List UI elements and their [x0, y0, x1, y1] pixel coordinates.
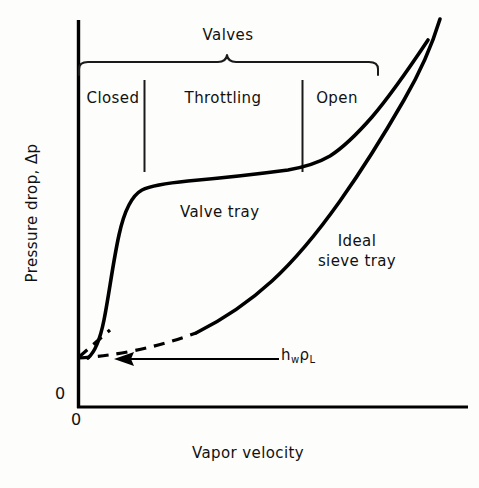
- region-label-throttling: Throttling: [147, 89, 299, 107]
- valves-bracket-label: Valves: [128, 26, 328, 44]
- origin-label-y: 0: [55, 384, 66, 403]
- annotation-h-symbol: h: [281, 346, 291, 364]
- region-label-closed: Closed: [84, 89, 142, 107]
- valve-tray-curve: [88, 40, 428, 358]
- y-axis-title: Pressure drop, Δp: [23, 118, 41, 308]
- figure-container: Pressure drop, Δp Vapor velocity Valves …: [0, 0, 479, 488]
- annotation-h-subscript: w: [291, 354, 300, 365]
- valves-brace: [79, 55, 378, 75]
- valve-tray-curve-label: Valve tray: [180, 203, 259, 221]
- annotation-rho-symbol: ρ: [300, 346, 310, 364]
- weir-liquid-head-annotation: hwρL: [281, 346, 315, 365]
- region-label-open: Open: [306, 89, 368, 107]
- annotation-rho-subscript: L: [309, 354, 315, 365]
- x-axis-title: Vapor velocity: [148, 444, 348, 462]
- ideal-sieve-tray-label-line2: sieve tray: [309, 251, 405, 271]
- ideal-sieve-tray-curve-label: Ideal sieve tray: [309, 231, 405, 271]
- origin-label-x: 0: [71, 410, 82, 429]
- ideal-sieve-tray-label-line1: Ideal: [309, 231, 405, 251]
